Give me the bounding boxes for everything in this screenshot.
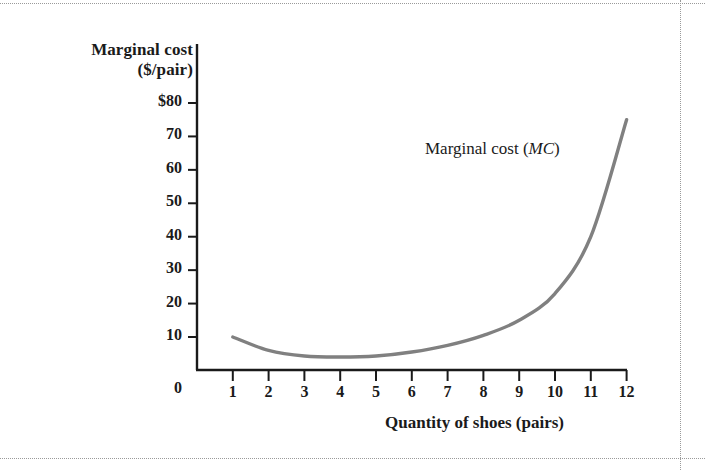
y-axis-title: Marginal cost ($/pair) bbox=[91, 40, 193, 80]
x-tick-label: 6 bbox=[397, 383, 427, 401]
x-axis-ticks bbox=[233, 370, 627, 381]
y-tick-label: $80 bbox=[124, 92, 182, 110]
y-tick-label: 30 bbox=[124, 259, 182, 277]
chart-axes bbox=[196, 44, 627, 370]
y-axis-title-line2: ($/pair) bbox=[91, 60, 193, 80]
y-tick-label: 40 bbox=[124, 226, 182, 244]
curve-annotation-label: Marginal cost (MC) bbox=[425, 139, 560, 159]
y-tick-label: 20 bbox=[124, 293, 182, 311]
x-axis-title: Quantity of shoes (pairs) bbox=[385, 413, 564, 433]
y-tick-label: 50 bbox=[124, 192, 182, 210]
y-tick-label: 70 bbox=[124, 125, 182, 143]
figure-page: Marginal cost ($/pair) Quantity of shoes… bbox=[0, 0, 705, 470]
x-tick-label: 9 bbox=[504, 383, 534, 401]
x-tick-label: 11 bbox=[576, 383, 606, 401]
x-tick-label: 7 bbox=[433, 383, 463, 401]
y-tick-label: 60 bbox=[124, 159, 182, 177]
x-tick-label: 3 bbox=[289, 383, 319, 401]
origin-label: 0 bbox=[170, 379, 186, 397]
curve-label-mc: MC bbox=[529, 139, 555, 158]
y-axis-title-line1: Marginal cost bbox=[91, 40, 193, 60]
x-tick-label: 10 bbox=[540, 383, 570, 401]
y-axis-ticks bbox=[188, 103, 197, 337]
x-tick-label: 2 bbox=[254, 383, 284, 401]
curve-label-suffix: ) bbox=[554, 139, 560, 158]
x-tick-label: 12 bbox=[612, 383, 642, 401]
x-tick-label: 4 bbox=[325, 383, 355, 401]
y-tick-label: 10 bbox=[124, 326, 182, 344]
curve-label-prefix: Marginal cost ( bbox=[425, 139, 529, 158]
x-tick-label: 5 bbox=[361, 383, 391, 401]
x-tick-label: 1 bbox=[218, 383, 248, 401]
x-tick-label: 8 bbox=[468, 383, 498, 401]
